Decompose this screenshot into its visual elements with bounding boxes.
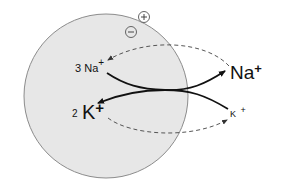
outside-sodium-ion: Na [230, 62, 254, 83]
outside-sodium-charge: + [254, 61, 262, 76]
potassium-count: 2 [72, 108, 78, 119]
pump-diagram [0, 0, 281, 179]
label-outside-sodium: Na+ [230, 62, 262, 82]
sodium-count: 3 [75, 62, 81, 74]
cell-membrane [24, 14, 188, 178]
negative-charge-icon [126, 27, 137, 38]
potassium-ion: K [82, 101, 95, 123]
outside-potassium-charge: + [240, 105, 245, 115]
potassium-charge: + [95, 99, 104, 116]
label-inside-sodium: 3 Na+ [75, 58, 104, 74]
positive-charge-icon [139, 12, 150, 23]
sodium-charge: + [98, 57, 104, 68]
label-outside-potassium: K + [230, 104, 246, 120]
outside-potassium-ion: K [230, 109, 236, 119]
sodium-ion: Na [84, 62, 98, 74]
label-inside-potassium: 2 K+ [72, 100, 104, 122]
